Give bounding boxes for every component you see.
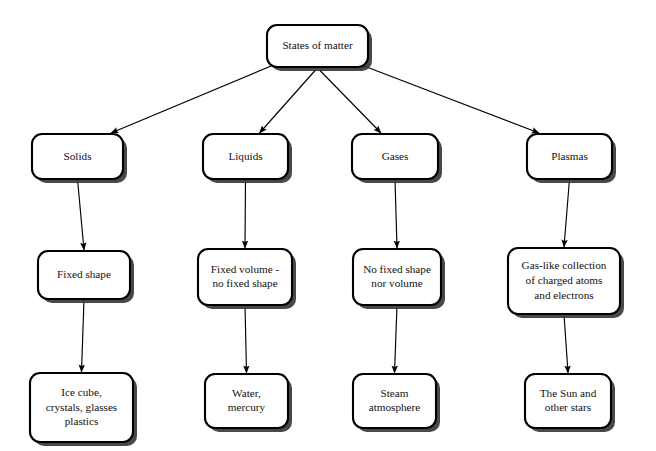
- node-state-liquids[interactable]: Liquids: [203, 134, 292, 183]
- edge-plasmas-property-to-example: [564, 314, 568, 373]
- node-state-plasmas-label: Plasmas: [551, 149, 588, 161]
- edge-liquids-state-to-property: [245, 179, 246, 248]
- node-property-plasmas[interactable]: Gas-like collectionof charged atomsand e…: [508, 248, 624, 318]
- edge-liquids-property-to-example: [245, 305, 247, 373]
- edge-root-to-liquids: [260, 70, 316, 133]
- node-states-of-matter[interactable]: States of matter: [267, 25, 372, 71]
- node-property-liquids[interactable]: Fixed volume -no fixed shape: [198, 249, 296, 309]
- node-state-solids[interactable]: Solids: [32, 134, 127, 183]
- node-state-liquids-label: Liquids: [228, 149, 262, 161]
- edge-root-to-solids: [111, 66, 271, 133]
- edge-root-to-plasmas: [364, 66, 539, 133]
- edge-gases-property-to-example: [395, 305, 398, 373]
- node-property-gases[interactable]: No fixed shapenor volume: [353, 249, 445, 309]
- node-example-solids[interactable]: Ice cube,crystals, glassesplastics: [30, 373, 137, 446]
- node-example-liquids[interactable]: Water,mercury: [205, 374, 292, 432]
- node-states-of-matter-label: States of matter: [282, 39, 352, 51]
- node-state-solids-label: Solids: [64, 149, 92, 161]
- node-example-gases[interactable]: Steamatmosphere: [353, 374, 440, 432]
- node-state-plasmas[interactable]: Plasmas: [527, 134, 616, 183]
- diagram-page: States of matterSolidsFixed shapeIce cub…: [0, 0, 656, 451]
- node-property-solids[interactable]: Fixed shape: [38, 251, 134, 303]
- edge-plasmas-state-to-property: [564, 179, 570, 247]
- node-property-solids-label: Fixed shape: [57, 268, 111, 280]
- edge-solids-state-to-property: [78, 179, 85, 250]
- edge-root-to-gases: [320, 70, 382, 133]
- edge-solids-property-to-example: [82, 299, 85, 372]
- edge-layer: [78, 66, 570, 373]
- node-state-gases-label: Gases: [382, 149, 409, 161]
- states-of-matter-flowchart: States of matterSolidsFixed shapeIce cub…: [0, 0, 656, 451]
- edge-gases-state-to-property: [395, 179, 397, 248]
- node-example-plasmas[interactable]: The Sun andother stars: [525, 374, 615, 432]
- node-state-gases[interactable]: Gases: [352, 134, 442, 183]
- node-layer: States of matterSolidsFixed shapeIce cub…: [30, 25, 624, 446]
